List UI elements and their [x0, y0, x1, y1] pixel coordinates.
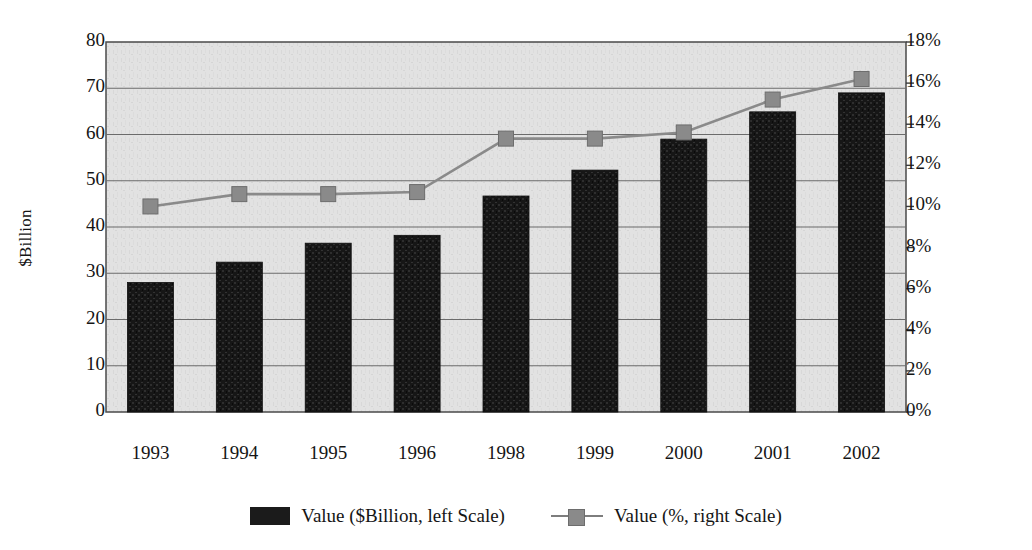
x-axis-tick-label: 1996	[372, 442, 462, 464]
line-marker	[410, 185, 425, 200]
legend-swatch-bar-icon	[250, 507, 290, 525]
y-axis-left-tick-label: 20	[59, 307, 105, 329]
y-axis-right-tick-label: 16%	[906, 70, 966, 92]
bar	[305, 243, 351, 412]
x-axis-tick-label: 1995	[283, 442, 373, 464]
y-axis-right-tick-label: 18%	[906, 29, 966, 51]
legend-line-marker	[568, 509, 585, 526]
legend-entry-line[interactable]: Value (%, right Scale)	[551, 505, 782, 527]
y-axis-right-tick-label: 6%	[906, 276, 966, 298]
y-axis-left-tick-label: 10	[59, 353, 105, 375]
bar	[127, 283, 173, 413]
y-axis-left-tick-label: 70	[59, 75, 105, 97]
y-axis-right-tick-label: 4%	[906, 317, 966, 339]
x-axis-tick-label: 2002	[817, 442, 907, 464]
chart-container: $Billion 01020304050607080 0%2%4%6%8%10%…	[0, 0, 1032, 550]
bar	[572, 170, 618, 412]
bar	[750, 112, 796, 412]
bar	[483, 196, 529, 412]
y-axis-left-tick-label: 30	[59, 260, 105, 282]
legend-label-bar: Value ($Billion, left Scale)	[301, 505, 505, 527]
y-axis-left-tick-label: 50	[59, 168, 105, 190]
y-axis-right-tick-label: 0%	[906, 399, 966, 421]
y-axis-left-tick-label: 60	[59, 122, 105, 144]
line-marker	[499, 131, 514, 146]
line-marker	[321, 187, 336, 202]
bar	[661, 139, 707, 412]
y-axis-right-tick-label: 14%	[906, 111, 966, 133]
line-marker	[143, 199, 158, 214]
chart-plot-area	[0, 0, 1032, 550]
y-axis-left-ticks: 01020304050607080	[59, 0, 105, 550]
line-marker	[587, 131, 602, 146]
line-marker	[232, 187, 247, 202]
y-axis-left-title: $Billion	[16, 168, 36, 308]
line-marker	[854, 72, 869, 87]
y-axis-right-tick-label: 12%	[906, 152, 966, 174]
y-axis-right-tick-label: 2%	[906, 358, 966, 380]
bar	[216, 262, 262, 412]
y-axis-right-tick-label: 10%	[906, 193, 966, 215]
x-axis-tick-label: 2001	[728, 442, 818, 464]
x-axis-tick-label: 1998	[461, 442, 551, 464]
y-axis-right-ticks: 0%2%4%6%8%10%12%14%16%18%	[906, 0, 966, 550]
chart-legend: Value ($Billion, left Scale) Value (%, r…	[0, 505, 1032, 527]
bar	[394, 235, 440, 412]
x-axis-tick-label: 1999	[550, 442, 640, 464]
x-axis-tick-label: 1994	[194, 442, 284, 464]
line-marker	[765, 92, 780, 107]
legend-label-line: Value (%, right Scale)	[614, 505, 782, 527]
bar	[839, 93, 885, 412]
y-axis-left-tick-label: 80	[59, 29, 105, 51]
y-axis-left-tick-label: 0	[59, 399, 105, 421]
line-marker	[676, 125, 691, 140]
legend-entry-bar[interactable]: Value ($Billion, left Scale)	[250, 505, 505, 527]
y-axis-right-tick-label: 8%	[906, 235, 966, 257]
x-axis-tick-label: 1993	[105, 442, 195, 464]
x-axis-tick-label: 2000	[639, 442, 729, 464]
y-axis-left-tick-label: 40	[59, 214, 105, 236]
legend-swatch-line-icon	[551, 507, 603, 525]
